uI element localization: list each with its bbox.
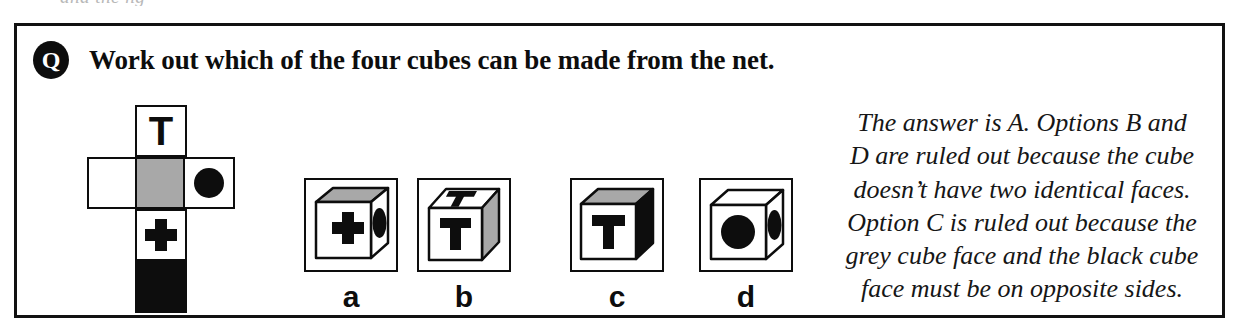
option-c[interactable]: c (570, 178, 664, 312)
option-b-box[interactable] (417, 178, 511, 272)
explanation-line: face must be on opposite sides. (817, 272, 1227, 305)
explanation-line: doesn’t have two identical faces. (817, 173, 1227, 206)
cube-d-illustration (701, 180, 791, 270)
letter-t-icon: T (149, 111, 173, 151)
filled-circle-icon (194, 168, 224, 198)
question-frame: Q Work out which of the four cubes can b… (14, 23, 1225, 318)
option-c-box[interactable] (570, 178, 664, 272)
explanation-line: Option C is ruled out because the (817, 206, 1227, 239)
cube-net-diagram: T (73, 105, 283, 310)
option-a[interactable]: a (304, 178, 398, 312)
net-cell-top: T (135, 105, 187, 157)
net-cell-black (135, 261, 187, 313)
question-prompt: Work out which of the four cubes can be … (89, 45, 774, 76)
net-cell-right-circle (183, 157, 235, 209)
option-d[interactable]: d (699, 178, 793, 312)
net-cell-left-blank (87, 157, 139, 209)
cube-c-illustration (572, 180, 662, 270)
bleed-text-above-frame: and the ng (0, 0, 1239, 6)
explanation-line: D are ruled out because the cube (817, 139, 1227, 172)
option-b[interactable]: b (417, 178, 511, 312)
option-a-label: a (304, 282, 398, 312)
question-header: Q Work out which of the four cubes can b… (33, 41, 774, 79)
cube-a-illustration (306, 180, 396, 270)
option-a-box[interactable] (304, 178, 398, 272)
plus-sign-icon (145, 219, 177, 251)
explanation-line: The answer is A. Options B and (817, 106, 1227, 139)
question-badge-icon: Q (33, 41, 69, 79)
net-cell-center-grey (135, 157, 187, 209)
cube-b-illustration (419, 180, 509, 270)
explanation-line: grey cube face and the black cube (817, 239, 1227, 272)
net-cell-plus (135, 209, 187, 261)
option-b-label: b (417, 282, 511, 312)
option-d-label: d (699, 282, 793, 312)
option-d-box[interactable] (699, 178, 793, 272)
answer-explanation: The answer is A. Options B and D are rul… (817, 106, 1227, 306)
option-c-label: c (570, 282, 664, 312)
